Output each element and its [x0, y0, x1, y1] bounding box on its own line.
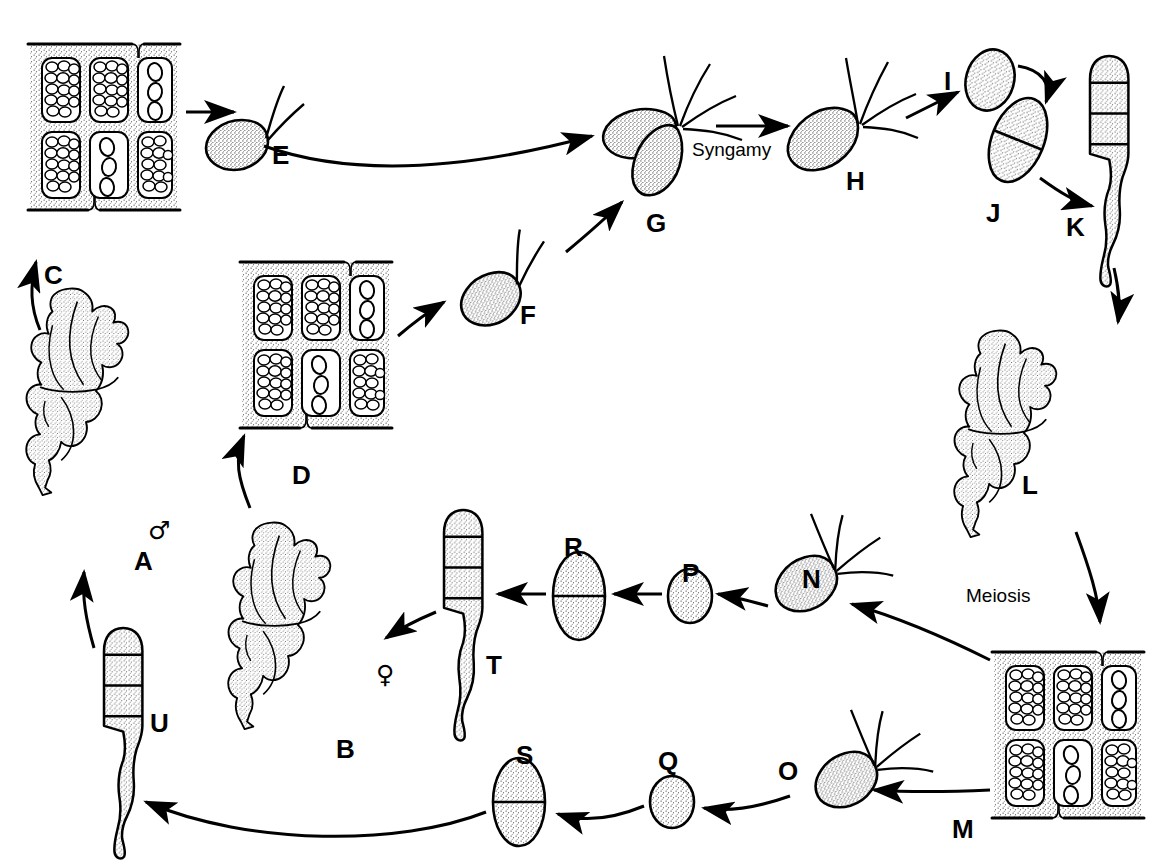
two-celled-germling-R	[553, 552, 605, 640]
stage-label-H: H	[846, 168, 865, 194]
stage-label-F: F	[520, 302, 536, 328]
arrow-F-to-G	[566, 202, 622, 252]
sporangium-sorus-M	[992, 652, 1144, 818]
stage-label-A: A	[134, 548, 153, 574]
zoospore-N	[757, 497, 896, 618]
gametangium-sorus-C	[28, 44, 180, 210]
male-symbol-icon: ♂	[148, 518, 170, 543]
arrow-K-to-L	[1114, 268, 1119, 322]
stage-label-E: E	[272, 142, 289, 168]
arrow-N-to-P	[718, 594, 768, 606]
stage-label-O: O	[778, 758, 798, 784]
arrow-L-to-M	[1076, 532, 1100, 622]
male-gametophyte-thallus-A	[26, 289, 128, 496]
stage-label-U: U	[150, 710, 169, 736]
zygote-H	[788, 58, 918, 170]
arrow-U-to-A	[83, 572, 94, 648]
young-germling-K	[1090, 56, 1128, 286]
arrow-Q-to-S	[558, 806, 644, 819]
arrow-E-to-G	[264, 136, 592, 166]
stage-label-R: R	[564, 534, 583, 560]
stage-label-G: G	[646, 210, 666, 236]
female-gamete-F	[445, 224, 562, 332]
arrow-J-to-K	[1040, 178, 1092, 206]
stage-label-Q: Q	[658, 748, 678, 774]
female-symbol-icon: ♀	[376, 662, 394, 687]
arrow-A-to-C	[32, 262, 40, 330]
arrow-S-to-U	[146, 802, 486, 836]
stage-label-M: M	[952, 816, 974, 842]
stage-label-N: N	[802, 566, 821, 592]
sporophyte-thallus-L	[954, 331, 1056, 538]
arrow-I-to-J	[1018, 66, 1048, 102]
stage-label-I: I	[944, 68, 951, 94]
life-cycle-artwork	[0, 0, 1164, 862]
stage-label-P: P	[682, 560, 699, 586]
two-celled-germling-S	[493, 758, 545, 846]
stage-label-T: T	[486, 652, 502, 678]
arrow-M-to-N	[852, 604, 990, 660]
stage-label-B: B	[336, 736, 355, 762]
process-label-syngamy-text: Syngamy	[692, 140, 771, 159]
process-label-meiosis-text: Meiosis	[966, 586, 1030, 605]
stage-label-K: K	[1066, 214, 1085, 240]
male-germling-U	[104, 628, 142, 858]
female-germling-T	[444, 510, 482, 740]
female-gametophyte-thallus-B	[228, 523, 330, 730]
life-cycle-figure: Syngamy Meiosis ♂ ♀ A B C D E F G H I J …	[0, 0, 1164, 862]
arrow-M-to-O	[874, 790, 990, 792]
arrow-D-to-F	[398, 302, 444, 336]
stage-label-S: S	[516, 742, 533, 768]
stage-label-D: D	[292, 462, 311, 488]
settled-spore-Q	[650, 776, 694, 828]
gametangium-sorus-D	[240, 262, 392, 428]
stage-label-C: C	[44, 262, 63, 288]
arrow-O-to-Q	[704, 796, 790, 810]
arrow-T-to-B	[386, 612, 436, 638]
stage-label-L: L	[1022, 472, 1038, 498]
zoospore-O	[797, 693, 936, 814]
arrow-B-to-D	[238, 436, 250, 508]
flow-arrows	[32, 66, 1119, 836]
stage-label-J: J	[986, 200, 1000, 226]
